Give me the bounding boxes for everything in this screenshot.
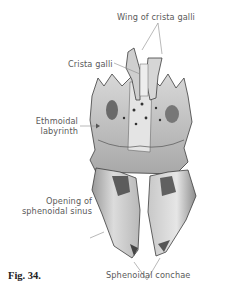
- figure-caption: Fig. 34.: [8, 270, 41, 281]
- label-wing-of-crista-galli: Wing of crista galli: [117, 12, 195, 22]
- sphenoidal-conchae-shape: [92, 168, 196, 258]
- label-ethmoidal-labyrinth-line2: labyrinth: [30, 126, 78, 136]
- label-ethmoidal-labyrinth-line1: Ethmoidal: [30, 116, 78, 126]
- label-opening-of-sphenoidal-sinus: Opening of sphenoidal sinus: [6, 196, 92, 216]
- ethmoid-bone-illustration: [0, 0, 234, 290]
- label-ethmoidal-labyrinth: Ethmoidal labyrinth: [30, 116, 78, 136]
- label-sphenoidal-conchae: Sphenoidal conchae: [106, 270, 190, 280]
- label-crista-galli: Crista galli: [68, 59, 113, 69]
- label-opening-line2: sphenoidal sinus: [6, 206, 92, 216]
- label-opening-line1: Opening of: [6, 196, 92, 206]
- anatomical-figure: Wing of crista galli Crista galli Ethmoi…: [0, 0, 234, 290]
